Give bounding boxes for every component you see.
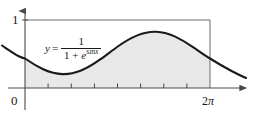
x-axis-label-two-pi: 2π <box>202 95 214 107</box>
origin-label-zero: 0 <box>11 94 18 107</box>
equation-equals-sign: = <box>52 43 58 54</box>
equation-exponent: sinx <box>86 47 98 56</box>
equation-annotation: y = 1 1 + esinx <box>45 36 101 61</box>
x-axis-label-pi-symbol: π <box>208 94 214 108</box>
function-plot-figure: 1 0 2π y = 1 1 + esinx <box>0 0 256 116</box>
equation-exponent-sin: sin <box>86 47 95 56</box>
plot-canvas <box>0 0 256 116</box>
equation-numerator: 1 <box>74 36 88 48</box>
equation-denominator-plus: + <box>72 49 78 61</box>
equation-fraction: 1 1 + esinx <box>61 36 101 61</box>
equation-denominator: 1 + esinx <box>61 49 101 61</box>
equation-lhs: y <box>45 43 50 54</box>
y-axis-label-one: 1 <box>12 13 19 26</box>
equation-exponent-variable: x <box>95 47 98 56</box>
equation-denominator-one: 1 <box>64 49 70 61</box>
